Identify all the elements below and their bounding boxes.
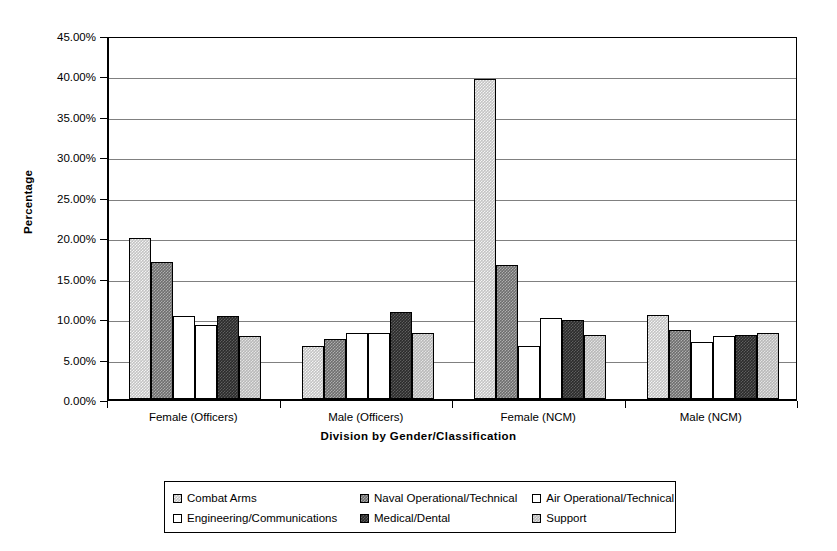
y-axis-tick-label: 5.00%: [6, 356, 96, 368]
gridline: [109, 200, 796, 201]
y-axis-tick-label: 40.00%: [6, 72, 96, 84]
plot-area: [107, 37, 797, 401]
bar: [713, 336, 735, 399]
bar: [518, 346, 540, 399]
legend-item[interactable]: Air Operational/Technical: [532, 492, 675, 504]
bar: [151, 262, 173, 399]
legend-item[interactable]: Medical/Dental: [360, 512, 532, 524]
bar: [173, 316, 195, 399]
legend-item[interactable]: Naval Operational/Technical: [360, 492, 532, 504]
legend-swatch-icon: [532, 514, 541, 523]
legend-swatch-icon: [360, 494, 369, 503]
y-axis-tick-mark: [100, 361, 107, 362]
legend-label: Support: [546, 512, 586, 524]
y-axis-tick-mark: [100, 199, 107, 200]
y-axis-tick-mark: [100, 118, 107, 119]
y-axis-tick-label: 0.00%: [6, 396, 96, 408]
chart-legend: Combat ArmsNaval Operational/TechnicalAi…: [164, 481, 676, 533]
bar: [647, 315, 669, 399]
y-axis-tick-mark: [100, 77, 107, 78]
bar: [412, 333, 434, 399]
bar: [735, 335, 757, 399]
legend-item[interactable]: Combat Arms: [173, 492, 360, 504]
y-axis-tick-mark: [100, 320, 107, 321]
legend-swatch-icon: [173, 514, 182, 523]
bar: [757, 333, 779, 399]
legend-label: Naval Operational/Technical: [374, 492, 517, 504]
bar: [239, 336, 261, 399]
legend-item[interactable]: Engineering/Communications: [173, 512, 360, 524]
y-axis-tick-mark: [100, 280, 107, 281]
gridline: [109, 159, 796, 160]
x-axis-category-label: Female (NCM): [448, 411, 628, 423]
bar: [129, 238, 151, 399]
legend-label: Combat Arms: [187, 492, 257, 504]
y-axis-tick-label: 30.00%: [6, 153, 96, 165]
y-axis-tick-label: 45.00%: [6, 32, 96, 44]
y-axis-tick-mark: [100, 401, 107, 402]
legend-label: Medical/Dental: [374, 512, 450, 524]
bar: [562, 320, 584, 399]
x-axis-category-label: Female (Officers): [103, 411, 283, 423]
bar: [540, 318, 562, 399]
x-axis-tick-mark: [280, 401, 281, 408]
gridline: [109, 281, 796, 282]
bar: [584, 335, 606, 399]
y-axis-tick-mark: [100, 37, 107, 38]
gridline: [109, 78, 796, 79]
legend-row: Engineering/CommunicationsMedical/Dental…: [173, 508, 675, 528]
bar: [324, 339, 346, 399]
legend-swatch-icon: [532, 494, 541, 503]
x-axis-category-label: Male (NCM): [621, 411, 801, 423]
bar: [368, 333, 390, 399]
bar: [390, 312, 412, 399]
bar: [669, 330, 691, 399]
y-axis-tick-label: 10.00%: [6, 315, 96, 327]
legend-swatch-icon: [173, 494, 182, 503]
x-axis-tick-mark: [625, 401, 626, 408]
legend-swatch-icon: [360, 514, 369, 523]
bar: [496, 265, 518, 399]
x-axis-tick-mark: [452, 401, 453, 408]
y-axis-tick-label: 25.00%: [6, 194, 96, 206]
y-axis-tick-mark: [100, 239, 107, 240]
x-axis-tick-mark: [107, 401, 108, 408]
x-axis-tick-mark: [797, 401, 798, 408]
legend-label: Air Operational/Technical: [546, 492, 674, 504]
bar: [346, 333, 368, 399]
gridline: [109, 321, 796, 322]
y-axis-tick-label: 15.00%: [6, 275, 96, 287]
bar-chart: Percentage 45.00%40.00%35.00%30.00%25.00…: [0, 0, 837, 551]
y-axis-tick-label: 35.00%: [6, 113, 96, 125]
bar: [474, 79, 496, 399]
legend-row: Combat ArmsNaval Operational/TechnicalAi…: [173, 488, 675, 508]
bar: [195, 325, 217, 399]
y-axis-tick-label: 20.00%: [6, 234, 96, 246]
x-axis-title: Division by Gender/Classification: [0, 430, 837, 442]
legend-item[interactable]: Support: [532, 512, 675, 524]
bar: [217, 316, 239, 399]
legend-label: Engineering/Communications: [187, 512, 337, 524]
y-axis-tick-mark: [100, 158, 107, 159]
bar: [302, 346, 324, 399]
bar: [691, 342, 713, 399]
gridline: [109, 240, 796, 241]
gridline: [109, 119, 796, 120]
x-axis-category-label: Male (Officers): [276, 411, 456, 423]
